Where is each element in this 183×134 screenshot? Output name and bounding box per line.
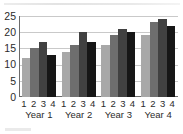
bar-year-3-series-1 [101, 45, 110, 97]
bar-year-1-series-4 [47, 55, 56, 97]
bar-year-1-series-1 [22, 58, 31, 97]
bar-year-2-series-2 [70, 45, 79, 97]
y-tick-label: 10 [4, 59, 16, 69]
y-tick-label: 15 [4, 43, 16, 53]
bar-year-3-series-3 [118, 29, 127, 97]
x-axis-group: 1 2 3 4 Year 3 [99, 98, 139, 120]
bar-group [138, 16, 178, 97]
bar-year-4-series-2 [150, 22, 159, 97]
bar-group [99, 16, 139, 97]
x-group-label: Year 2 [59, 109, 99, 120]
y-axis-labels: 25 20 15 10 5 0 [0, 0, 19, 134]
y-tick-label: 0 [10, 92, 16, 102]
bar-year-2-series-4 [87, 42, 96, 97]
bar-year-3-series-4 [127, 32, 136, 97]
x-axis-labels: 1 2 3 4 Year 1 1 2 3 4 Year 2 1 2 3 4 Ye… [19, 98, 178, 120]
y-tick-label: 20 [4, 27, 16, 37]
bar-year-4-series-4 [167, 26, 176, 97]
bar-year-2-series-1 [62, 52, 71, 97]
bar-chart: 25 20 15 10 5 0 [0, 0, 183, 134]
bar-year-2-series-3 [79, 32, 88, 97]
y-tick-label: 5 [10, 76, 16, 86]
x-tick-labels: 1 2 3 4 [138, 98, 178, 109]
x-tick-labels: 1 2 3 4 [19, 98, 59, 109]
x-axis-group: 1 2 3 4 Year 4 [138, 98, 178, 120]
bar-groups [19, 16, 178, 97]
bar-group [19, 16, 59, 97]
bar-year-1-series-3 [39, 42, 48, 97]
bar-year-3-series-2 [110, 35, 119, 97]
bar-year-1-series-2 [30, 48, 39, 97]
bar-group [59, 16, 99, 97]
x-group-label: Year 1 [19, 109, 59, 120]
x-axis-group: 1 2 3 4 Year 1 [19, 98, 59, 120]
scan-artifact-bottom [5, 128, 31, 131]
x-group-label: Year 3 [99, 109, 139, 120]
x-tick-labels: 1 2 3 4 [99, 98, 139, 109]
x-axis-group: 1 2 3 4 Year 2 [59, 98, 99, 120]
x-group-label: Year 4 [138, 109, 178, 120]
x-tick-labels: 1 2 3 4 [59, 98, 99, 109]
bar-year-4-series-3 [158, 19, 167, 97]
scan-artifact-top [4, 3, 180, 5]
y-tick-label: 25 [4, 11, 16, 21]
bar-year-4-series-1 [141, 35, 150, 97]
